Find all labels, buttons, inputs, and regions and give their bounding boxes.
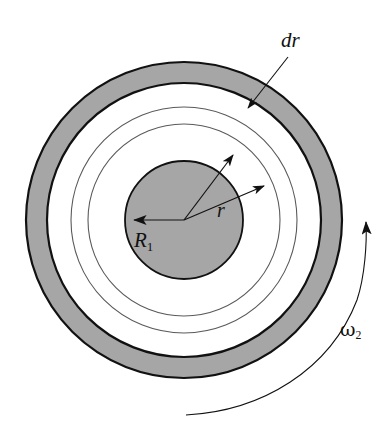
label-R1: R1 [134, 230, 153, 253]
label-R1-base: R [134, 228, 147, 252]
label-omega2: ω2 [340, 320, 361, 342]
label-r: r [217, 200, 225, 220]
figure-container: dr R1 r ω2 [0, 0, 391, 424]
annular-disc-diagram [0, 0, 391, 424]
label-omega-base: ω [340, 318, 356, 340]
label-R1-subscript: 1 [147, 239, 154, 254]
label-omega-subscript: 2 [356, 329, 362, 342]
label-dr-text: dr [281, 28, 300, 52]
label-r-text: r [217, 199, 225, 221]
label-dr: dr [281, 30, 300, 51]
